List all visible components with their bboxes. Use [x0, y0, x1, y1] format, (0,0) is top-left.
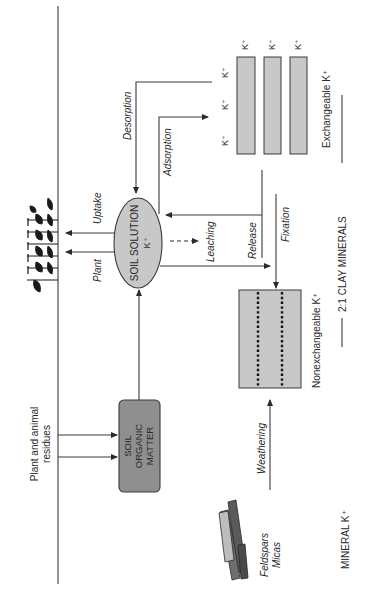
- svg-text:K⁺: K⁺: [240, 39, 250, 50]
- desorption-label: Desorption: [122, 91, 133, 140]
- som-line3: MATTER: [144, 427, 155, 465]
- exchangeable-label: Exchangeable K⁺: [321, 70, 332, 148]
- residues-line2: residues: [41, 425, 52, 463]
- nonexchangeable-label: Nonexchangeable K⁺: [311, 293, 322, 388]
- clay-minerals-section-label: 2:1 CLAY MINERALS: [337, 216, 348, 312]
- uptake-label: Uptake: [92, 192, 103, 224]
- weathering-label: Weathering: [256, 423, 267, 474]
- nonexchangeable-k-box: [239, 290, 301, 388]
- soil-solution-label: SOIL SOLUTION: [129, 205, 140, 281]
- plant-label: Plant: [92, 258, 103, 282]
- feldspars-label: Feldspars: [259, 533, 270, 577]
- release-label: Release: [247, 222, 258, 259]
- residues-line1: Plant and animal: [29, 407, 40, 482]
- som-line2: ORGANIC: [133, 424, 144, 468]
- svg-text:K⁺: K⁺: [220, 135, 230, 146]
- exchangeable-k-plates: [237, 57, 307, 154]
- plants-icon: [27, 198, 58, 292]
- som-line1: SOIL: [122, 435, 133, 457]
- svg-text:K⁺: K⁺: [293, 39, 303, 50]
- feldspar-mica-crystals-icon: [219, 500, 248, 580]
- leaching-label: Leaching: [205, 221, 216, 262]
- potassium-cycle-diagram: Uptake Plant SOIL SOLUTION K⁺ Desorption…: [0, 0, 378, 606]
- adsorption-label: Adsorption: [162, 128, 173, 177]
- mineral-k-section-label: MINERAL K⁺: [340, 510, 351, 569]
- svg-text:K⁺: K⁺: [220, 67, 230, 78]
- svg-text:K⁺: K⁺: [267, 39, 277, 50]
- desorption-arrow: [136, 82, 212, 193]
- micas-label: Micas: [271, 542, 282, 568]
- svg-text:K⁺: K⁺: [220, 99, 230, 110]
- soil-solution-ion: K⁺: [142, 237, 152, 248]
- fixation-label: Fixation: [280, 207, 291, 242]
